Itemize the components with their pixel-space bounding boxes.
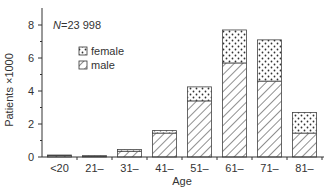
legend-male-swatch (79, 61, 87, 69)
x-tick-label: 31– (120, 162, 139, 174)
legend-female-label: female (91, 45, 124, 57)
bar-male-segment (118, 151, 142, 157)
x-axis-title: Age (172, 175, 192, 187)
annotation-value: =23 998 (61, 19, 101, 31)
x-tick-label: <20 (50, 162, 69, 174)
bar-male-segment (258, 81, 282, 157)
bar-male-segment (153, 133, 177, 157)
x-tick-label: 51– (190, 162, 209, 174)
annotation-italic-n: N (53, 19, 61, 31)
y-tick-label: 6 (28, 52, 34, 64)
sample-size-annotation: N=23 998 (53, 19, 101, 31)
legend-female-swatch (79, 47, 87, 55)
x-axis-ticks: <2021–31–41–51–61–71–81– (50, 157, 322, 174)
y-axis-ticks: 02468 (28, 19, 42, 163)
bar-female-segment (223, 30, 247, 63)
legend: female male (79, 45, 124, 71)
y-axis-title: Patients ×1000 (3, 53, 15, 127)
y-tick-label: 8 (28, 19, 34, 31)
bar-male-segment (293, 133, 317, 157)
y-tick-label: 4 (28, 85, 34, 97)
bar-female-segment (153, 131, 177, 133)
x-tick-label: 21– (85, 162, 104, 174)
bar-female-segment (188, 87, 212, 101)
bar-male-segment (223, 63, 247, 157)
x-tick-label: 81– (295, 162, 314, 174)
x-tick-label: 41– (155, 162, 174, 174)
x-tick-label: 71– (260, 162, 279, 174)
stacked-bar-chart: 02468 <2021–31–41–51–61–71–81– Age Patie… (0, 0, 331, 194)
y-tick-label: 0 (28, 151, 34, 163)
bar-male-segment (188, 101, 212, 157)
x-tick-label: 61– (225, 162, 244, 174)
legend-male-label: male (91, 59, 115, 71)
bar-female-segment (293, 112, 317, 133)
bar-female-segment (48, 155, 72, 156)
bars-group (48, 30, 317, 157)
bar-female-segment (258, 40, 282, 81)
y-tick-label: 2 (28, 118, 34, 130)
bar-female-segment (118, 150, 142, 152)
